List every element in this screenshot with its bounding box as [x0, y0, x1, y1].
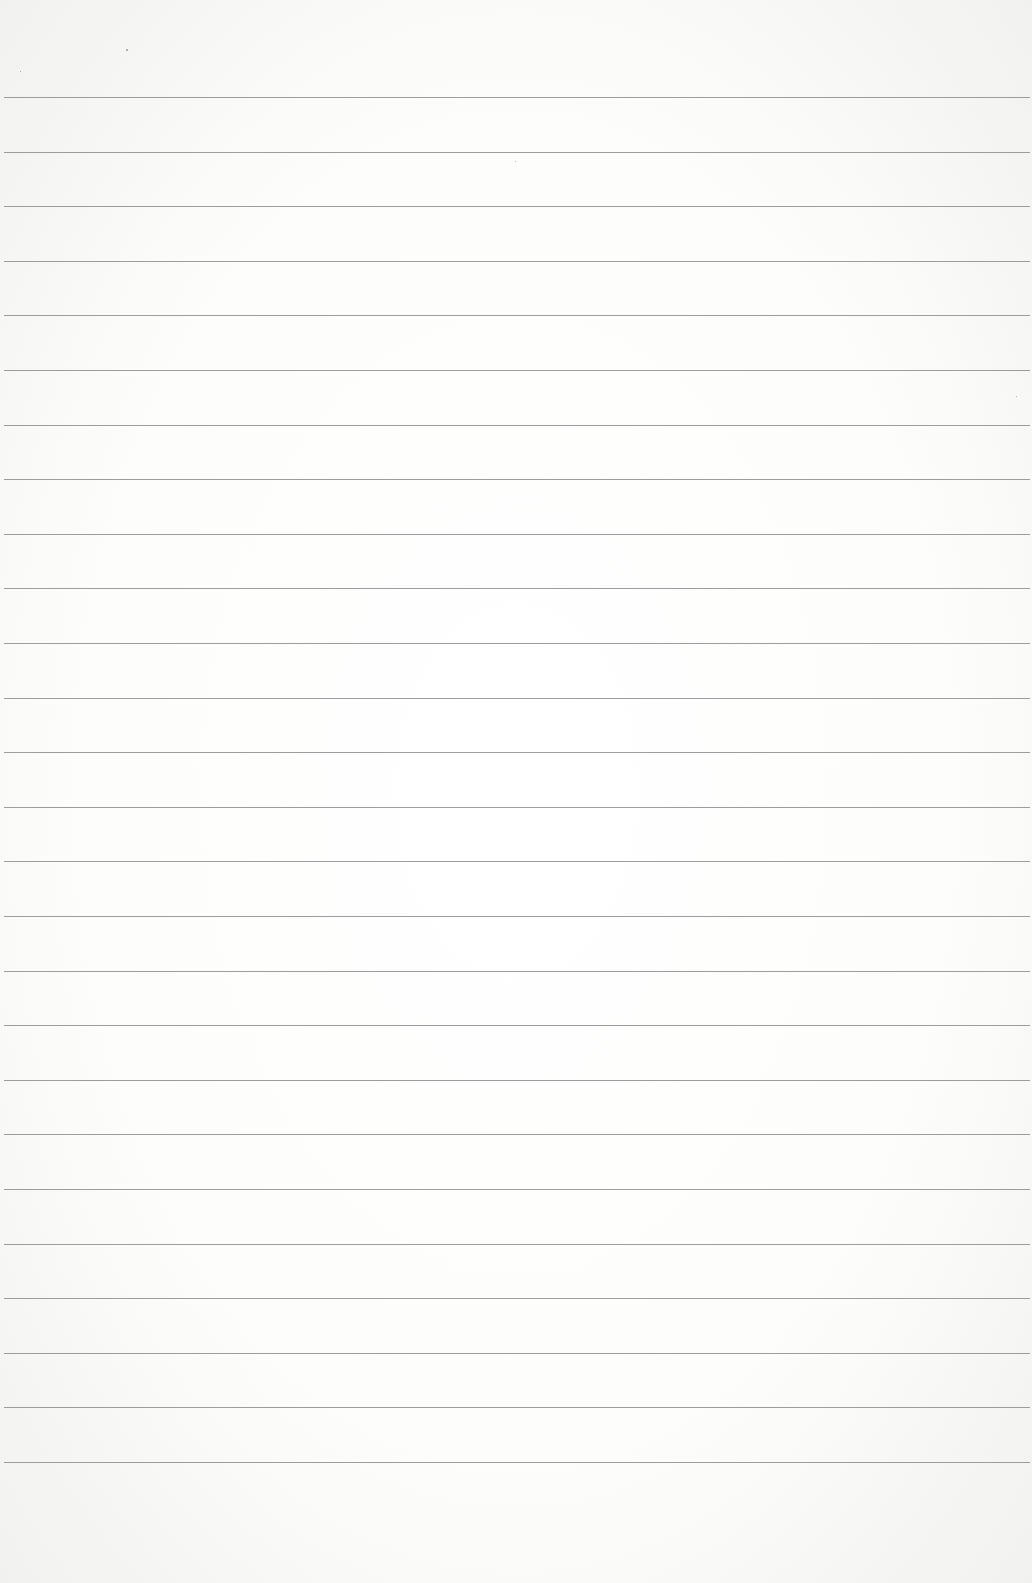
paper-speck [515, 161, 516, 162]
ruled-line [4, 971, 1030, 972]
ruled-line [4, 1407, 1030, 1408]
paper-speck [1016, 396, 1017, 397]
ruled-line [4, 425, 1030, 426]
ruled-line [4, 315, 1030, 316]
ruled-line [4, 1298, 1030, 1299]
ruled-line [4, 861, 1030, 862]
ruled-line [4, 1189, 1030, 1190]
paper-speck [126, 49, 128, 51]
ruled-line [4, 1080, 1030, 1081]
ruled-line [4, 261, 1030, 262]
ruled-paper-sheet [0, 0, 1032, 1583]
ruled-line [4, 698, 1030, 699]
ruled-line [4, 807, 1030, 808]
ruled-line [4, 152, 1030, 153]
ruled-line [4, 534, 1030, 535]
paper-speck [20, 71, 21, 72]
ruled-line [4, 370, 1030, 371]
ruled-line [4, 1244, 1030, 1245]
ruled-line [4, 1462, 1030, 1463]
ruled-line [4, 916, 1030, 917]
ruled-line [4, 97, 1030, 98]
ruled-line [4, 588, 1030, 589]
ruled-line [4, 1025, 1030, 1026]
ruled-line [4, 1134, 1030, 1135]
ruled-line [4, 479, 1030, 480]
ruled-line [4, 752, 1030, 753]
ruled-line [4, 1353, 1030, 1354]
ruled-line [4, 206, 1030, 207]
ruled-line [4, 643, 1030, 644]
